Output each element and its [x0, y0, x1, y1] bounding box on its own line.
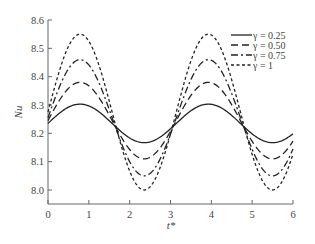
legend-label: γ = 1 — [252, 60, 273, 71]
y-tick-label: 8.2 — [31, 128, 44, 139]
y-tick-label: 8.6 — [31, 15, 44, 26]
x-tick-label: 4 — [209, 209, 215, 220]
y-tick-label: 8.1 — [31, 156, 44, 167]
x-tick-label: 6 — [290, 209, 295, 220]
series-line — [48, 60, 293, 176]
x-axis-label: t* — [167, 219, 176, 231]
line-chart: 8.08.18.28.38.48.58.60123456 γ = 0.25γ =… — [0, 0, 315, 244]
x-tick-label: 0 — [45, 209, 50, 220]
x-tick-label: 2 — [127, 209, 132, 220]
y-tick-label: 8.3 — [31, 100, 44, 111]
legend: γ = 0.25γ = 0.50γ = 0.75γ = 1 — [231, 30, 286, 71]
y-tick-label: 8.5 — [31, 43, 44, 54]
series-line — [48, 82, 293, 158]
series-line — [48, 104, 293, 143]
x-tick-label: 5 — [250, 209, 255, 220]
y-tick-label: 8.0 — [31, 185, 44, 196]
x-tick-label: 1 — [86, 209, 91, 220]
y-axis-label: Nu — [12, 105, 24, 119]
y-tick-label: 8.4 — [31, 71, 45, 82]
